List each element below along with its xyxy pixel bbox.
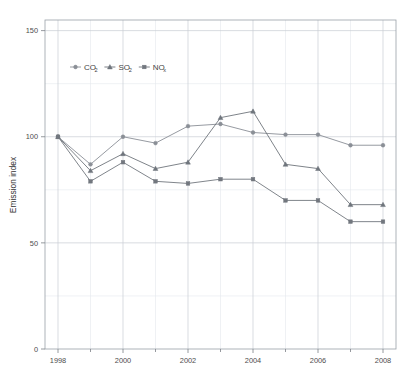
y-tick-label: 100 — [26, 132, 38, 141]
legend-marker — [74, 65, 78, 69]
x-axis-tick-labels: 199820002002200420062008 — [50, 356, 391, 365]
y-tick-label: 150 — [26, 26, 38, 35]
data-point — [284, 199, 288, 203]
data-point — [349, 143, 353, 147]
emission-index-line-chart: 050100150 199820002002200420062008 Emiss… — [0, 0, 417, 391]
data-point — [316, 199, 320, 203]
chart-figure: 050100150 199820002002200420062008 Emiss… — [0, 0, 417, 391]
x-tick-label: 2000 — [115, 356, 131, 365]
data-point — [121, 160, 125, 164]
legend-entry-nox[interactable]: NOx — [139, 63, 166, 73]
data-point — [89, 162, 93, 166]
data-point — [381, 143, 385, 147]
x-axis-ticks — [58, 349, 383, 353]
data-point — [186, 124, 190, 128]
data-point — [381, 220, 385, 224]
legend-marker — [143, 65, 147, 69]
data-point — [251, 131, 255, 135]
data-point — [251, 109, 256, 113]
legend-label-subscript: 2 — [129, 67, 132, 73]
y-tick-label: 0 — [34, 345, 38, 354]
data-point — [121, 135, 125, 139]
data-point — [56, 135, 60, 139]
data-point — [186, 182, 190, 186]
data-point — [89, 180, 93, 184]
chart-legend: CO2SO2NOx — [70, 63, 166, 73]
data-point — [349, 220, 353, 224]
legend-label-subscript: 2 — [94, 67, 97, 73]
data-point — [219, 122, 223, 126]
y-tick-label: 50 — [30, 239, 38, 248]
x-tick-label: 1998 — [50, 356, 66, 365]
data-point — [219, 177, 223, 181]
y-axis-tick-labels: 050100150 — [26, 26, 38, 353]
minor-gridlines — [45, 20, 396, 349]
y-axis-ticks — [41, 31, 45, 349]
data-point — [284, 133, 288, 137]
data-point — [154, 141, 158, 145]
legend-label-subscript: x — [163, 67, 166, 73]
data-point — [316, 133, 320, 137]
x-tick-label: 2004 — [245, 356, 261, 365]
y-axis-title: Emission index — [8, 156, 18, 213]
x-tick-label: 2002 — [180, 356, 196, 365]
legend-entry-so2[interactable]: SO2 — [104, 63, 132, 73]
x-tick-label: 2006 — [310, 356, 326, 365]
x-tick-label: 2008 — [375, 356, 391, 365]
data-point — [251, 177, 255, 181]
data-point — [283, 162, 288, 166]
legend-entry-co2[interactable]: CO2 — [70, 63, 98, 73]
data-point — [154, 180, 158, 184]
data-point — [121, 151, 126, 155]
